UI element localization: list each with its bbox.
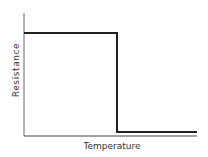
chart-plot — [0, 0, 208, 157]
step-series-line — [24, 33, 197, 132]
x-axis-label: Temperature — [83, 141, 140, 151]
chart: Resistance Temperature — [0, 0, 208, 157]
y-axis-label: Resistance — [11, 43, 21, 98]
